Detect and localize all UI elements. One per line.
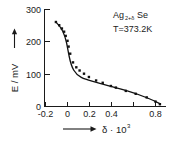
y-axis-title: E / mV <box>9 63 20 92</box>
data-point <box>65 35 67 37</box>
data-point <box>135 93 137 95</box>
data-point <box>110 85 112 87</box>
data-point <box>66 40 68 42</box>
annotation-composition: Ag 2+δ Se <box>113 10 148 21</box>
data-point <box>63 31 65 33</box>
y-tick-label-100: 100 <box>26 70 41 80</box>
y-axis-label-group: E / mV <box>9 29 20 93</box>
chart-figure: 300 200 100 0 -0.2 0 0.2 0.4 0.8 <box>0 0 178 143</box>
x-axis-title-base: 10 <box>116 124 127 135</box>
x-tick-label-neg02: -0.2 <box>38 109 54 119</box>
composition-subscript: 2+δ <box>125 15 134 21</box>
composition-tail: Se <box>137 10 148 20</box>
data-point <box>61 27 63 29</box>
chart-plot-area: 300 200 100 0 -0.2 0 0.2 0.4 0.8 <box>0 0 178 143</box>
data-point <box>146 96 148 98</box>
y-axis-ticks <box>45 10 50 107</box>
y-axis-tick-labels: 300 200 100 0 <box>26 5 41 112</box>
x-axis-label-group: δ · 10 3 <box>63 123 131 135</box>
data-point <box>102 82 104 84</box>
data-point <box>75 66 77 68</box>
data-point <box>55 21 57 23</box>
x-tick-label-04: 0.4 <box>105 109 118 119</box>
data-series-curve <box>56 22 160 104</box>
composition-main: Ag <box>113 10 124 20</box>
data-point <box>69 53 71 55</box>
data-point <box>58 24 60 26</box>
data-point <box>125 90 127 92</box>
y-tick-label-300: 300 <box>26 5 41 15</box>
data-point <box>95 79 97 81</box>
x-axis-title-delta: δ <box>102 124 107 135</box>
x-axis-title-dot: · <box>110 124 113 135</box>
data-point <box>159 103 161 105</box>
x-tick-label-08: 0.8 <box>149 109 162 119</box>
x-axis-title-exponent: 3 <box>127 123 131 129</box>
y-tick-label-200: 200 <box>26 37 41 47</box>
x-axis-ticks <box>46 102 156 107</box>
data-point <box>72 61 74 63</box>
x-tick-label-02: 0.2 <box>83 109 96 119</box>
annotation-temperature: T=373.2K <box>113 24 152 34</box>
data-point <box>88 76 90 78</box>
data-point <box>67 45 69 47</box>
data-point <box>115 86 117 88</box>
data-point <box>154 100 156 102</box>
data-point <box>78 69 80 71</box>
x-axis-tick-labels: -0.2 0 0.2 0.4 0.8 <box>38 109 162 119</box>
x-tick-label-0: 0 <box>65 109 70 119</box>
x-axis-arrow-icon <box>91 126 97 132</box>
y-axis-arrow-icon <box>12 29 17 35</box>
data-point <box>83 73 85 75</box>
